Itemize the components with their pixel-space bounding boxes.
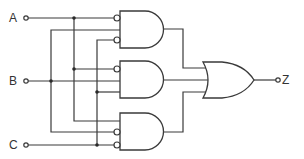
input-a-terminal — [24, 16, 28, 20]
junction-dot — [72, 16, 76, 20]
and-gate-2 — [120, 61, 164, 98]
inverter-bubble — [114, 142, 120, 148]
inverter-bubble — [114, 15, 120, 21]
inverter-bubble — [114, 37, 120, 43]
junction-dot — [95, 90, 99, 94]
or-gate — [203, 62, 254, 98]
inverter-bubble — [114, 129, 120, 135]
and-gate-1 — [120, 11, 164, 48]
output-z-terminal — [276, 78, 280, 82]
input-a-label: A — [9, 12, 17, 24]
input-c-terminal — [24, 143, 28, 147]
logic-circuit-diagram: A B C Z — [0, 0, 304, 159]
junction-dot — [95, 143, 99, 147]
junction-dot — [72, 67, 76, 71]
circuit-svg — [0, 0, 304, 159]
input-b-terminal — [24, 79, 28, 83]
output-z-label: Z — [282, 74, 289, 86]
input-b-label: B — [9, 75, 17, 87]
input-c-label: C — [9, 139, 18, 151]
inverter-bubble — [114, 66, 120, 72]
wire-gate1-out — [163, 29, 208, 68]
junction-dot — [49, 79, 53, 83]
wire-gate3-out — [163, 92, 208, 132]
and-gate-3 — [120, 113, 164, 150]
